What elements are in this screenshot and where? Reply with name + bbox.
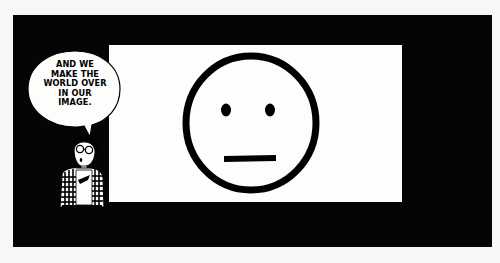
cartoon-character-icon bbox=[0, 0, 500, 263]
